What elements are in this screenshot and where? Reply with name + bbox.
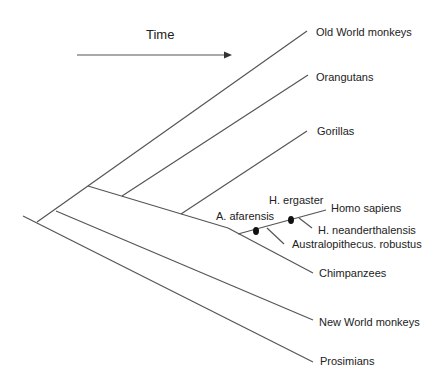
label-new-world-monkeys: New World monkeys	[319, 317, 420, 328]
arrow-head-icon	[224, 52, 232, 59]
a-afarensis-node-dot	[253, 227, 259, 235]
label-australopithecus-robustus: Australopithecus. robustus	[292, 239, 422, 250]
label-a-afarensis: A. afarensis	[216, 211, 274, 222]
branch-prosimians	[23, 216, 313, 362]
label-chimpanzees: Chimpanzees	[319, 268, 386, 279]
branch-new-world-monkeys	[56, 211, 313, 320]
branch-orangutans	[122, 75, 308, 196]
time-label: Time	[146, 28, 174, 41]
phylogenetic-tree-diagram: Time Old World monkeys Orangutans Gorill…	[0, 0, 444, 387]
label-homo-sapiens: Homo sapiens	[331, 203, 401, 214]
h-ergaster-node-dot	[288, 216, 294, 224]
label-h-neanderthalensis: H. neanderthalensis	[318, 225, 416, 236]
label-orangutans: Orangutans	[316, 72, 373, 83]
branch-old-world-monkeys	[37, 31, 307, 222]
label-prosimians: Prosimians	[320, 356, 374, 367]
label-gorillas: Gorillas	[317, 126, 354, 137]
tree-lines	[0, 0, 444, 387]
branch-robustus	[267, 228, 284, 244]
label-h-ergaster: H. ergaster	[269, 195, 323, 206]
label-old-world-monkeys: Old World monkeys	[316, 27, 412, 38]
branch-ape-stem	[88, 186, 228, 228]
branch-chimpanzees	[228, 228, 313, 273]
branch-neanderthalensis	[299, 218, 312, 228]
